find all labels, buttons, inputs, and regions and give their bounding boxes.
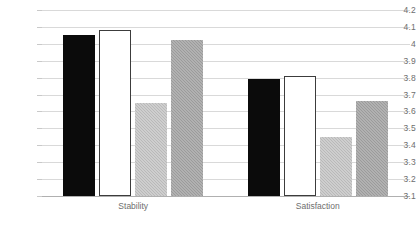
bar — [99, 30, 131, 196]
y-tick-label: 3.6 — [382, 107, 416, 116]
y-tick-mark — [37, 128, 42, 129]
y-tick-label: 3.2 — [382, 175, 416, 184]
gridline — [41, 179, 410, 180]
bar — [135, 103, 167, 196]
gridline — [41, 44, 410, 45]
y-tick-mark — [37, 162, 42, 163]
y-tick-mark — [37, 111, 42, 112]
gridline — [41, 78, 410, 79]
gridline — [41, 128, 410, 129]
y-tick-mark — [37, 145, 42, 146]
y-tick-label: 3.1 — [382, 192, 416, 201]
y-tick-label: 3.8 — [382, 74, 416, 83]
bar — [248, 79, 280, 196]
y-axis — [0, 0, 37, 234]
bar — [284, 76, 316, 196]
gridline — [41, 95, 410, 96]
y-tick-label: 3.3 — [382, 158, 416, 167]
y-tick-label: 3.7 — [382, 91, 416, 100]
y-tick-mark — [37, 44, 42, 45]
gridline — [41, 162, 410, 163]
y-tick-label: 4 — [382, 40, 416, 49]
y-tick-mark — [37, 179, 42, 180]
gridline — [41, 27, 410, 28]
gridline — [41, 61, 410, 62]
x-axis-line — [41, 196, 410, 197]
gridline — [41, 111, 410, 112]
gridline — [41, 145, 410, 146]
y-tick-mark — [37, 10, 42, 11]
y-tick-label: 3.4 — [382, 141, 416, 150]
bar-chart: 4.24.143.93.83.73.63.53.43.33.23.1 Stabi… — [0, 0, 416, 234]
bar — [320, 137, 352, 196]
y-tick-label: 4.1 — [382, 23, 416, 32]
x-tick-label: Stability — [41, 202, 226, 211]
y-tick-mark — [37, 61, 42, 62]
y-tick-mark — [37, 27, 42, 28]
gridline — [41, 10, 410, 11]
x-tick-label: Satisfaction — [226, 202, 411, 211]
plot-area — [41, 10, 410, 196]
y-tick-mark — [37, 78, 42, 79]
y-tick-label: 4.2 — [382, 6, 416, 15]
y-tick-label: 3.5 — [382, 124, 416, 133]
bar — [63, 35, 95, 196]
bar — [171, 40, 203, 196]
y-tick-mark — [37, 196, 42, 197]
y-tick-label: 3.9 — [382, 57, 416, 66]
y-tick-mark — [37, 95, 42, 96]
